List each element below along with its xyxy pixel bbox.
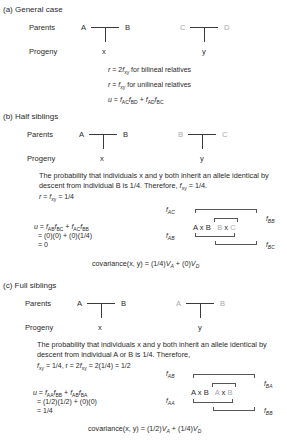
f-label-bot-left: fAB (166, 232, 175, 239)
descent-line (103, 134, 104, 149)
bracket-top-inner (212, 383, 236, 387)
parents-label: Parents (25, 299, 51, 308)
parents-label: Parents (27, 130, 53, 139)
u-equation-c: u = fAAfBB + fABfBA (33, 388, 87, 397)
f-label-top-inner: fBB (266, 215, 275, 222)
bracket-bot-right (215, 241, 257, 245)
descent-line (101, 303, 102, 318)
progeny-label: Progeny (29, 47, 57, 56)
progeny-x: x (102, 47, 106, 56)
parent-D: D (224, 23, 229, 32)
cross-text: A x B A x B (191, 388, 232, 397)
descent-line (204, 27, 205, 42)
parent-C: C (180, 23, 185, 32)
progeny-y: y (202, 47, 206, 56)
unilineal-equation: r = fxy for unilineal relatives (108, 80, 191, 89)
parent-A: A (176, 299, 181, 308)
bracket-bot-left (193, 399, 233, 403)
progeny-label: Progeny (27, 154, 55, 163)
progeny-x: x (98, 323, 102, 332)
bracket-bot-left (195, 233, 235, 237)
parent-B: B (125, 23, 130, 32)
bracket-bot-right (213, 407, 255, 411)
f-label-bot-right: fBB (264, 407, 273, 414)
u-equation-b: u = fABfBC + fACfBB (34, 222, 89, 231)
parent-B: B (220, 299, 225, 308)
u-equation-a: u = fACfBD + fADfBC (108, 95, 164, 104)
f-label-top-outer: fAC (166, 206, 175, 213)
f-label-top-inner: fBA (264, 380, 273, 387)
covariance-b: covariance(x, y) = (1/4)VA + (0)VD (92, 259, 199, 268)
section-b-title: (b) Half siblings (3, 112, 58, 121)
bilineal-equation: r = 2fxy for bilineal relatives (108, 65, 191, 74)
progeny-y: y (198, 323, 202, 332)
parent-B: B (121, 299, 126, 308)
progeny-label: Progeny (25, 323, 53, 332)
explanation-c: The probability that individuals x and y… (37, 340, 282, 360)
parent-A: A (77, 299, 82, 308)
explanation-b: The probability that individuals x and y… (39, 171, 284, 191)
descent-line (105, 27, 106, 42)
cross-text: A x B B x C (193, 223, 236, 232)
parents-label: Parents (29, 23, 55, 32)
section-c-title: (c) Full siblings (3, 281, 56, 290)
u-step-2-c: = 1/4 (37, 406, 53, 415)
f-label-bot-right: fBC (266, 241, 275, 248)
covariance-c: covariance(x, y) = (1/2)VA + (1/4)VD (88, 424, 201, 433)
section-a-title: (a) General case (3, 5, 63, 14)
r-equation-b: r = fxy = 1/4 (39, 192, 74, 201)
parent-A: A (79, 130, 84, 139)
f-label-bot-left: fAA (166, 397, 175, 404)
bracket-top-inner (214, 218, 238, 222)
bracket-top-outer (193, 374, 255, 378)
descent-line (200, 303, 201, 318)
r-equation-c: fxy = 1/4, r = 2fxy = 2(1/4) = 1/2 (37, 361, 131, 370)
f-label-top-outer: fAB (166, 370, 175, 377)
u-step-1-c: = (1/2)(1/2) + (0)(0) (37, 397, 97, 406)
parent-B: B (123, 130, 128, 139)
parent-A: A (81, 23, 86, 32)
u-step-1-b: = (0)(0) + (0)(1/4) (38, 231, 92, 240)
progeny-x: x (100, 154, 104, 163)
parent-C: C (222, 130, 227, 139)
descent-line (202, 134, 203, 149)
u-step-2-b: = 0 (38, 240, 48, 249)
bracket-top-outer (195, 209, 257, 213)
parent-B: B (178, 130, 183, 139)
progeny-y: y (200, 154, 204, 163)
